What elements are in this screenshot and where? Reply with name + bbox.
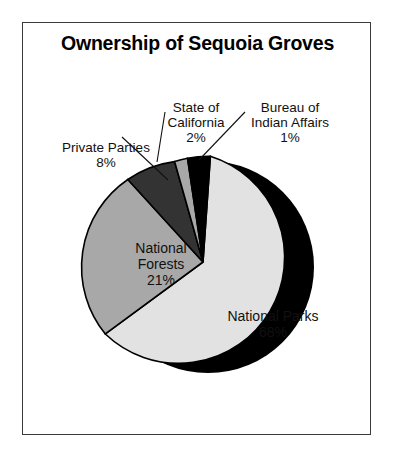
pie-label-national-forests-line1: National: [118, 241, 204, 257]
pie-label-bureau-of-indian-affairs-line2: Indian Affairs: [236, 115, 344, 130]
pie-label-state-of-california: State of California 2%: [152, 100, 240, 145]
pie-label-national-parks-percent: 68%: [212, 325, 334, 341]
pie-label-bureau-of-indian-affairs-line1: Bureau of: [236, 100, 344, 115]
chart-page: Ownership of Sequoia Groves State of: [0, 0, 395, 458]
pie-label-private-parties-name: Private Parties: [46, 140, 166, 155]
pie-label-national-parks-name: National Parks: [212, 309, 334, 325]
pie-label-bureau-of-indian-affairs-percent: 1%: [236, 130, 344, 145]
pie-label-state-of-california-line2: California: [152, 115, 240, 130]
pie-label-bureau-of-indian-affairs: Bureau of Indian Affairs 1%: [236, 100, 344, 145]
pie-label-private-parties-percent: 8%: [46, 155, 166, 170]
pie-label-national-forests-percent: 21%: [118, 273, 204, 289]
pie-chart-svg: [22, 22, 371, 435]
pie-label-state-of-california-line1: State of: [152, 100, 240, 115]
pie-label-private-parties: Private Parties 8%: [46, 140, 166, 170]
pie-chart-area: State of California 2% Bureau of Indian …: [22, 22, 371, 435]
pie-label-national-parks: National Parks 68%: [212, 309, 334, 341]
pie-label-national-forests: National Forests 21%: [118, 241, 204, 289]
pie-label-national-forests-line2: Forests: [118, 257, 204, 273]
